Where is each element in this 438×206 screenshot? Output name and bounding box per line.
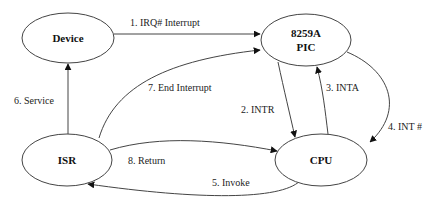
edge-label-int-number: 4. INT # [388,121,422,132]
edge-label-invoke: 5. Invoke [212,177,250,188]
edge-label-end-interrupt: 7. End Interrupt [148,82,212,93]
edge-intr [278,62,295,137]
node-isr: ISR [22,134,112,186]
edge-label-intr: 2. INTR [241,104,275,115]
edge-label-inta: 3. INTA [326,82,360,93]
edge-inta [317,67,328,134]
node-pic: 8259A PIC [261,14,351,66]
edge-return [110,141,277,151]
edge-label-irq: 1. IRQ# Interrupt [130,17,200,28]
edge-int-number [347,52,389,142]
edge-label-service: 6. Service [14,95,55,106]
edge-label-return: 8. Return [128,155,165,166]
node-pic-label-line2: PIC [297,41,316,53]
edge-end-interrupt [99,50,260,138]
node-pic-label-line1: 8259A [291,27,321,39]
node-cpu-label: CPU [310,154,333,166]
edge-invoke [88,181,300,196]
node-device-label: Device [52,32,83,44]
node-cpu: CPU [275,134,367,186]
node-isr-label: ISR [58,154,77,166]
node-device: Device [22,13,114,63]
diagram-canvas: Device 8259A PIC ISR CPU 1. IRQ# Interru… [0,0,438,206]
